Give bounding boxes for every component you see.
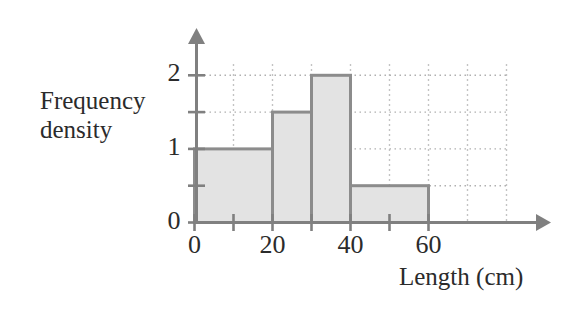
x-tick-label-0: 0 (175, 230, 215, 260)
x-tick-label-60: 60 (409, 230, 449, 260)
histogram-figure: Frequency density Length (cm) 0120204060 (0, 0, 583, 314)
histogram-bars (195, 75, 429, 222)
y-tick-label-1: 1 (157, 132, 181, 162)
x-tick-label-40: 40 (331, 230, 371, 260)
y-axis-arrowhead (188, 28, 205, 44)
x-axis-title: Length (cm) (399, 263, 523, 292)
y-tick-label-2: 2 (157, 58, 181, 88)
y-axis-title: Frequency density (40, 87, 146, 145)
y-axis-title-line1: Frequency (40, 87, 146, 114)
histogram-bar (195, 149, 273, 223)
x-tick-label-20: 20 (253, 230, 293, 260)
y-axis-title-line2: density (40, 116, 146, 145)
histogram-bar (273, 112, 312, 222)
histogram-bar (312, 75, 351, 222)
x-axis-arrowhead (536, 214, 551, 231)
